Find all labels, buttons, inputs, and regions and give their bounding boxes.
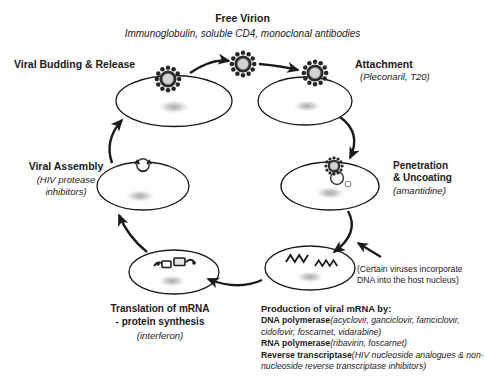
translation-line-2: - protein synthesis bbox=[80, 316, 240, 329]
enzyme-name-rna-polymerase: RNA polymerase bbox=[261, 338, 330, 348]
free-virion-subtitle: Immunoglobulin, soluble CD4, monoclonal … bbox=[0, 28, 485, 40]
enzyme-drugs-rna-polymerase: (ribavirin, foscarnet) bbox=[330, 338, 407, 348]
arrow-assembly-to-budding bbox=[110, 120, 122, 163]
cell-mrna-production bbox=[265, 246, 355, 290]
stage-label-budding: Viral Budding & Release bbox=[14, 58, 135, 70]
arrow-budding-to-free bbox=[190, 61, 229, 74]
stage-label-assembly: Viral Assembly bbox=[22, 160, 110, 172]
stage-drugs-assembly: (HIV protease inhibitors) bbox=[22, 174, 110, 197]
stage-label-penetration: Penetration & Uncoating bbox=[393, 160, 452, 184]
nucleus-note-line-1: (Certain viruses incorporate bbox=[357, 264, 485, 275]
arrow-free-to-attachment bbox=[259, 64, 298, 70]
cell-assembly bbox=[97, 159, 189, 210]
mrna-production-block: Production of viral mRNA by: DNA polymer… bbox=[261, 303, 485, 373]
penetration-line-1: Penetration bbox=[393, 160, 452, 172]
translation-line-1: Translation of mRNA bbox=[80, 303, 240, 316]
production-heading: Production of viral mRNA by: bbox=[261, 303, 485, 315]
cell-translation bbox=[129, 250, 219, 294]
stage-label-translation: Translation of mRNA - protein synthesis bbox=[80, 303, 240, 328]
production-enzyme-row: RNA polymerase(ribavirin, foscarnet) bbox=[261, 338, 485, 349]
enzyme-name-reverse-transcriptase: Reverse transcriptase bbox=[261, 350, 352, 360]
cell-attachment bbox=[258, 77, 352, 125]
viral-replication-diagram: Free Virion Immunoglobulin, soluble CD4,… bbox=[0, 0, 485, 378]
stage-drugs-translation: (interferon) bbox=[80, 330, 240, 341]
stage-drugs-penetration: (amantidine) bbox=[393, 185, 446, 196]
production-enzyme-row: Reverse transcriptase(HIV nucleoside ana… bbox=[261, 350, 485, 373]
assembly-drugs-line-2: inhibitors) bbox=[22, 186, 110, 198]
arrow-attachment-to-penetration bbox=[340, 117, 354, 158]
arrow-translation-to-assembly bbox=[119, 215, 147, 252]
stage-label-attachment: Attachment bbox=[355, 58, 413, 70]
enzyme-name-dna-polymerase: DNA polymerase bbox=[261, 315, 330, 325]
assembly-drugs-line-1: (HIV protease bbox=[22, 174, 110, 186]
production-enzyme-row: DNA polymerase(acyclovir, ganciclovir, f… bbox=[261, 315, 485, 338]
nucleus-note-line-2: DNA into the host nucleus) bbox=[357, 275, 485, 286]
penetration-line-2: & Uncoating bbox=[393, 172, 452, 184]
free-virion-title: Free Virion bbox=[0, 12, 485, 24]
nucleus-incorporation-note: (Certain viruses incorporate DNA into th… bbox=[357, 264, 485, 286]
arrow-nucleus-note-pointer bbox=[358, 243, 381, 257]
virion-free bbox=[230, 51, 257, 78]
stage-drugs-attachment: (Pleconaril, T20) bbox=[360, 71, 430, 82]
arrow-penetration-to-production bbox=[334, 211, 352, 252]
